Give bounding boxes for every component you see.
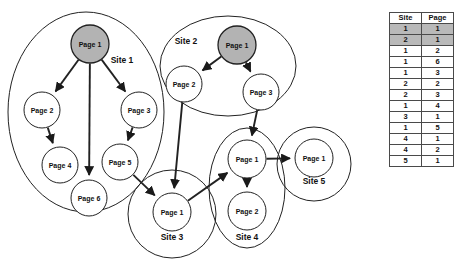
edge-s1p5-to-s3p1 <box>133 175 154 196</box>
site-label-site3: Site 3 <box>161 232 184 242</box>
edge-s2p3-to-s4p1 <box>252 110 257 135</box>
node-s2p3[interactable]: Page 3 <box>243 74 279 110</box>
node-label: Page 2 <box>236 208 259 216</box>
cell-page: 3 <box>422 90 454 101</box>
edge-s1p1-to-s1p2 <box>56 60 79 92</box>
node-label: Page 2 <box>173 81 196 89</box>
table-row: 11 <box>390 24 454 35</box>
node-label: Page 1 <box>79 41 102 49</box>
cell-site: 1 <box>390 123 422 134</box>
cell-site: 2 <box>390 35 422 46</box>
node-label: Page 4 <box>49 162 72 170</box>
site-label-site2: Site 2 <box>175 36 198 46</box>
diagram-page: Page 1Page 2Page 3Page 4Page 5Page 6Page… <box>0 0 458 264</box>
edge-s1p2-to-s1p4 <box>48 128 53 144</box>
node-s4p1[interactable]: Page 1 <box>228 140 266 178</box>
table-row: 14 <box>390 101 454 112</box>
table-row: 15 <box>390 123 454 134</box>
cell-page: 3 <box>422 68 454 79</box>
node-label: Page 5 <box>109 159 132 167</box>
node-s1p1[interactable]: Page 1 <box>71 25 109 63</box>
node-s1p4[interactable]: Page 4 <box>42 147 78 183</box>
node-s1p5[interactable]: Page 5 <box>102 144 138 180</box>
table-row: 41 <box>390 134 454 145</box>
cell-page: 2 <box>422 145 454 156</box>
edge-s3p1-to-s4p1 <box>188 173 227 201</box>
node-s3p1[interactable]: Page 1 <box>153 193 191 231</box>
cell-page: 2 <box>422 79 454 90</box>
site-label-site1: Site 1 <box>111 55 134 65</box>
cell-page: 1 <box>422 24 454 35</box>
node-label: Page 6 <box>78 195 101 203</box>
site-page-table-container: Site Page 11211216132223143115414251 <box>389 12 454 167</box>
site-label-site5: Site 5 <box>303 176 326 186</box>
column-header-site: Site <box>390 13 422 24</box>
column-header-page: Page <box>422 13 454 24</box>
cell-site: 3 <box>390 112 422 123</box>
cell-page: 1 <box>422 134 454 145</box>
cell-site: 1 <box>390 68 422 79</box>
cell-site: 4 <box>390 134 422 145</box>
cell-page: 1 <box>422 112 454 123</box>
node-s1p2[interactable]: Page 2 <box>24 92 60 128</box>
table-row: 42 <box>390 145 454 156</box>
table-row: 22 <box>390 79 454 90</box>
cell-site: 1 <box>390 46 422 57</box>
cell-page: 5 <box>422 123 454 134</box>
cell-site: 2 <box>390 79 422 90</box>
cell-page: 1 <box>422 35 454 46</box>
table-row: 23 <box>390 90 454 101</box>
edge-s2p1-to-s2p2 <box>203 57 222 71</box>
cell-site: 1 <box>390 24 422 35</box>
cell-site: 1 <box>390 57 422 68</box>
node-label: Page 1 <box>161 209 184 217</box>
site-label-layer: Site 1Site 2Site 3Site 4Site 5 <box>111 36 326 242</box>
cell-site: 4 <box>390 145 422 156</box>
cell-page: 4 <box>422 101 454 112</box>
node-label: Page 3 <box>250 89 273 97</box>
cell-site: 2 <box>390 90 422 101</box>
node-s5p1[interactable]: Page 1 <box>295 139 333 177</box>
node-label: Page 1 <box>236 156 259 164</box>
table-row: 16 <box>390 57 454 68</box>
cell-page: 2 <box>422 46 454 57</box>
node-label: Page 1 <box>226 42 249 50</box>
edge-s1p1-to-s1p6 <box>89 63 90 175</box>
node-layer: Page 1Page 2Page 3Page 4Page 5Page 6Page… <box>24 25 333 231</box>
site-page-table: Site Page 11211216132223143115414251 <box>389 12 454 167</box>
node-s1p3[interactable]: Page 3 <box>121 92 157 128</box>
table-row: 31 <box>390 112 454 123</box>
node-label: Page 1 <box>303 155 326 163</box>
node-label: Page 3 <box>128 107 151 115</box>
edge-s1p3-to-s1p5 <box>128 127 133 140</box>
cell-site: 1 <box>390 101 422 112</box>
cell-site: 5 <box>390 156 422 167</box>
table-row: 51 <box>390 156 454 167</box>
node-s4p2[interactable]: Page 2 <box>228 192 266 230</box>
table-row: 13 <box>390 68 454 79</box>
table-row: 21 <box>390 35 454 46</box>
table-header-row: Site Page <box>390 13 454 24</box>
node-label: Page 2 <box>31 107 54 115</box>
site-page-graph: Page 1Page 2Page 3Page 4Page 5Page 6Page… <box>0 0 372 264</box>
node-s2p1[interactable]: Page 1 <box>218 26 256 64</box>
node-s2p2[interactable]: Page 2 <box>166 66 202 102</box>
node-s1p6[interactable]: Page 6 <box>71 180 107 216</box>
edge-s2p2-to-s3p1 <box>174 102 182 188</box>
cell-page: 1 <box>422 156 454 167</box>
cell-page: 6 <box>422 57 454 68</box>
edge-s2p1-to-s2p3 <box>246 62 251 71</box>
table-row: 12 <box>390 46 454 57</box>
site-label-site4: Site 4 <box>236 232 259 242</box>
